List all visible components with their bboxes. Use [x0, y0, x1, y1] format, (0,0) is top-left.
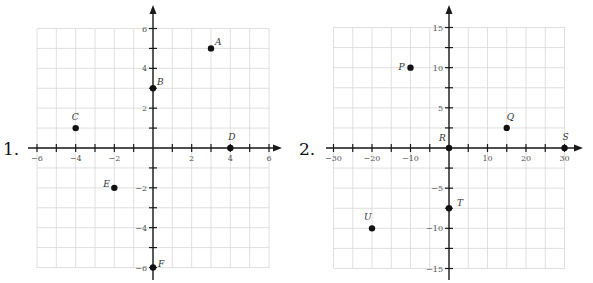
point-C: C — [72, 112, 79, 131]
point-dot-icon — [504, 125, 510, 131]
x-tick-label: −20 — [364, 154, 381, 163]
point-label: U — [364, 212, 372, 222]
x-tick-label: 10 — [482, 154, 492, 163]
x-tick-label: −4 — [70, 154, 82, 163]
y-tick-label: −2 — [135, 184, 147, 193]
point-dot-icon — [150, 264, 156, 270]
point-dot-icon — [72, 125, 78, 131]
point-P: P — [398, 62, 414, 72]
point-label: E — [102, 179, 110, 189]
x-tick-label: −2 — [108, 154, 120, 163]
y-axis-arrow-icon — [446, 5, 453, 14]
point-dot-icon — [407, 64, 413, 70]
coordinate-plane-2: −30−20−1010203015105−5−10−15PQRSTU2. — [299, 5, 583, 280]
y-tick-label: −10 — [426, 224, 443, 233]
y-tick-label: 10 — [433, 64, 443, 73]
point-dot-icon — [446, 145, 452, 151]
point-label: B — [156, 77, 164, 87]
point-label: C — [72, 112, 79, 122]
y-tick-label: −4 — [135, 224, 147, 233]
point-label: T — [457, 198, 464, 208]
y-tick-label: 15 — [433, 24, 443, 33]
y-tick-label: −15 — [426, 265, 443, 274]
x-tick-label: 20 — [521, 154, 531, 163]
point-dot-icon — [227, 145, 233, 151]
point-B: B — [150, 77, 164, 91]
y-tick-label: 2 — [142, 104, 147, 113]
coordinate-planes: −6−4−2246642−2−4−6ABCDEF1.−30−20−1010203… — [0, 0, 593, 283]
y-tick-label: 5 — [438, 104, 443, 113]
x-tick-label: 30 — [559, 154, 569, 163]
point-label: F — [157, 259, 165, 269]
x-axis-arrow-icon — [273, 145, 282, 152]
point-dot-icon — [208, 45, 214, 51]
point-S: S — [561, 132, 568, 151]
y-tick-label: −5 — [431, 184, 443, 193]
point-F: F — [150, 259, 165, 271]
x-tick-label: 2 — [189, 154, 194, 163]
coordinate-plane-1: −6−4−2246642−2−4−6ABCDEF1. — [3, 5, 282, 280]
point-dot-icon — [446, 205, 452, 211]
x-tick-label: −30 — [325, 154, 342, 163]
point-label: Q — [507, 112, 515, 122]
y-tick-label: 4 — [142, 64, 147, 73]
point-label: A — [214, 37, 222, 47]
point-label: D — [227, 132, 235, 142]
problem-number: 2. — [299, 139, 315, 159]
point-A: A — [208, 37, 222, 51]
point-E: E — [102, 179, 117, 191]
point-dot-icon — [369, 225, 375, 231]
x-tick-label: −10 — [402, 154, 419, 163]
problem-number: 1. — [3, 139, 19, 159]
y-axis-arrow-icon — [150, 5, 157, 14]
point-label: S — [563, 132, 569, 142]
x-axis-arrow-icon — [574, 145, 583, 152]
x-tick-label: 4 — [228, 154, 233, 163]
y-tick-label: 6 — [142, 25, 147, 34]
point-dot-icon — [150, 85, 156, 91]
x-tick-label: 6 — [266, 154, 271, 163]
y-tick-label: −6 — [135, 264, 147, 273]
point-dot-icon — [111, 185, 117, 191]
point-dot-icon — [561, 145, 567, 151]
x-tick-label: −6 — [31, 154, 43, 163]
point-label: P — [398, 62, 406, 72]
point-label: R — [438, 133, 446, 143]
